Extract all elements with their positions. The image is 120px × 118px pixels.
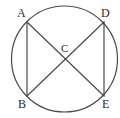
geometry-figure: A D C B E	[0, 0, 120, 118]
vertex-label-a: A	[17, 7, 26, 19]
vertex-label-d: D	[101, 7, 110, 19]
vertex-label-e: E	[102, 98, 109, 110]
vertex-label-b: B	[18, 98, 26, 110]
vertex-label-c: C	[61, 43, 68, 54]
